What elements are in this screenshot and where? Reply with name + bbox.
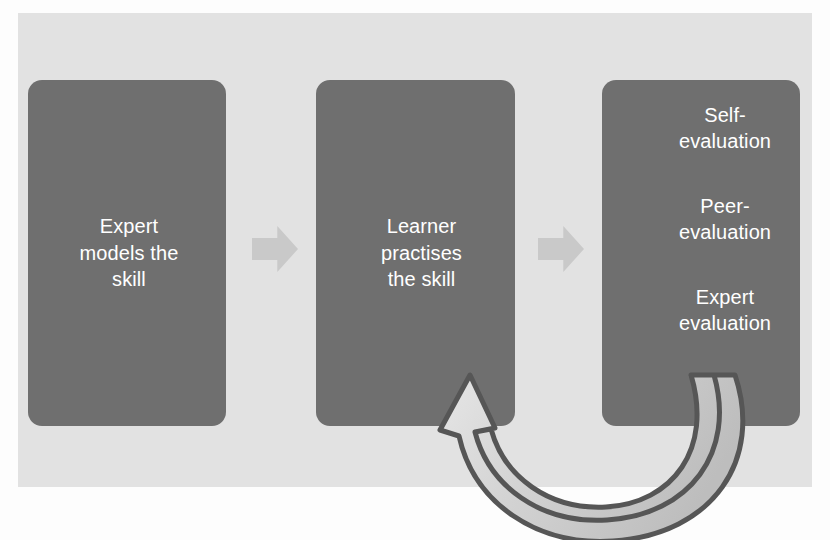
process-box-label: Learner practises the skill: [322, 213, 521, 292]
process-box-line: evaluation: [640, 310, 810, 336]
process-box-line: models the: [44, 240, 214, 266]
process-box-learner-practises[interactable]: Learner practises the skill: [316, 80, 515, 426]
process-box-line: Expert: [640, 284, 810, 310]
evaluation-item-peer: Peer- evaluation: [626, 193, 824, 246]
process-box-line: practises: [336, 240, 507, 266]
process-box-label: Expert models the skill: [30, 213, 228, 292]
process-box-line: Peer-: [640, 193, 810, 219]
process-box-line: Learner: [336, 213, 507, 239]
process-box-line: the skill: [336, 266, 507, 292]
process-box-evaluation[interactable]: Self- evaluation Peer- evaluation Expert…: [602, 80, 800, 426]
process-box-line: skill: [44, 266, 214, 292]
process-box-expert-models[interactable]: Expert models the skill: [28, 80, 226, 426]
process-box-line: Expert: [44, 213, 214, 239]
process-box-line: evaluation: [640, 128, 810, 154]
process-box-line: Self-: [640, 102, 810, 128]
evaluation-item-expert: Expert evaluation: [626, 284, 824, 337]
diagram-canvas: Expert models the skill Learner practise…: [0, 0, 830, 540]
evaluation-item-self: Self- evaluation: [626, 102, 824, 155]
process-box-line: evaluation: [640, 219, 810, 245]
